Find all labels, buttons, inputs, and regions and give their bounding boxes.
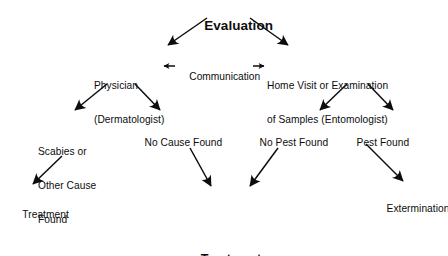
node-no-cause-found-label: No Cause Found <box>145 137 223 148</box>
node-evaluation-label: Evaluation <box>204 18 273 33</box>
evaluation-flowchart: Evaluation Physician (Dermatologist) Com… <box>0 0 448 256</box>
node-physician-line-1: Physician <box>94 80 164 91</box>
node-pest-found: Pest Found <box>345 126 409 160</box>
node-evaluation: Evaluation <box>186 3 276 48</box>
node-extermination-label: Extermination <box>387 203 448 214</box>
communication-label: Communication <box>189 71 260 82</box>
edge-label-communication: Communication <box>178 60 260 93</box>
node-scabies-line-2: Other Cause <box>38 180 96 191</box>
node-no-pest-found-label: No Pest Found <box>260 137 329 148</box>
node-no-pest-found: No Pest Found <box>248 126 328 160</box>
node-treatment-left-label: Treatment <box>22 209 69 220</box>
node-treatment-center-label: Treatment <box>171 252 291 256</box>
node-scabies-line-1: Scabies or <box>38 146 96 157</box>
node-pest-found-label: Pest Found <box>357 137 410 148</box>
node-extermination: Extermination <box>375 192 448 226</box>
node-no-cause-found: No Cause Found <box>133 126 222 160</box>
node-physician-line-2: (Dermatologist) <box>94 114 164 125</box>
node-treatment-left: Treatment <box>11 198 69 232</box>
node-home-visit-line-1: Home Visit or Examination <box>267 80 388 91</box>
node-home-visit-line-2: of Samples (Entomologist) <box>267 114 388 125</box>
node-treatment-psychiatrist: Treatment - Psychiatrist? <box>171 216 291 256</box>
